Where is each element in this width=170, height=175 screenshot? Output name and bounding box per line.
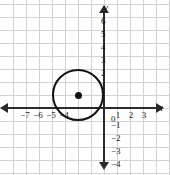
gridline-horizontal (0, 160, 170, 161)
y-tick-label: 3 (101, 56, 106, 65)
y-axis-label: y (103, 2, 108, 13)
y-tick-label: 5 (101, 30, 106, 39)
y-tick-label: −4 (111, 160, 121, 169)
gridline-vertical (39, 0, 40, 175)
y-axis-arrow-down (99, 162, 109, 170)
x-tick-label: −7 (20, 111, 30, 120)
gridline-vertical (130, 0, 131, 175)
gridline-vertical (156, 0, 157, 175)
y-tick-label: 2 (101, 69, 106, 78)
y-tick-label: 6 (101, 17, 106, 26)
gridline-vertical (143, 0, 144, 175)
gridline-horizontal (0, 121, 170, 122)
gridline-vertical (169, 0, 170, 175)
gridline-horizontal (0, 134, 170, 135)
x-axis-label: x (158, 102, 163, 113)
y-tick-label: 4 (101, 43, 106, 52)
x-tick-label: −5 (46, 111, 56, 120)
coordinate-plane-figure: −7−6−5−4123 6543210−1−2−3−4 x y (0, 0, 170, 175)
x-tick-label: 3 (142, 111, 147, 120)
x-axis-arrow-left (0, 103, 8, 113)
gridline-horizontal (0, 56, 170, 57)
gridline-horizontal (0, 17, 170, 18)
x-tick-label: −6 (33, 111, 43, 120)
gridline-horizontal (0, 147, 170, 148)
gridline-horizontal (0, 173, 170, 174)
circle-center-point (75, 92, 82, 99)
gridline-horizontal (0, 30, 170, 31)
gridline-horizontal (0, 43, 170, 44)
gridline-vertical (13, 0, 14, 175)
y-tick-label: −3 (111, 147, 121, 156)
y-tick-label: −1 (111, 121, 121, 130)
y-tick-label: −2 (111, 134, 121, 143)
gridline-horizontal (0, 4, 170, 5)
x-tick-label: 2 (129, 111, 134, 120)
x-tick-label: 1 (116, 111, 121, 120)
gridline-vertical (26, 0, 27, 175)
